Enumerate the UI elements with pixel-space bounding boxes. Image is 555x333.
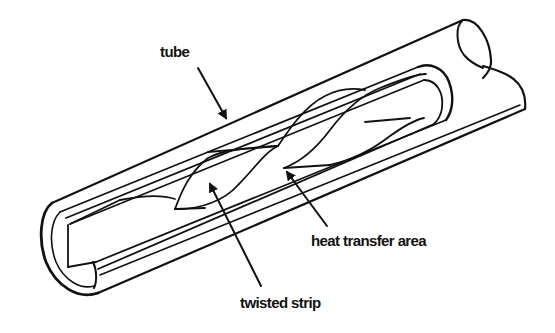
twisted-strip-arrow [210,184,261,286]
tube-arrow [198,68,226,118]
tube-outer-wall [52,20,525,293]
tube-label: tube [160,44,189,59]
twisted-strip-label: twisted strip [240,295,321,310]
heat-transfer-area-label: heat transfer area [311,233,426,248]
heat-transfer-area-arrow [287,172,327,226]
tube-diagram [0,0,555,333]
